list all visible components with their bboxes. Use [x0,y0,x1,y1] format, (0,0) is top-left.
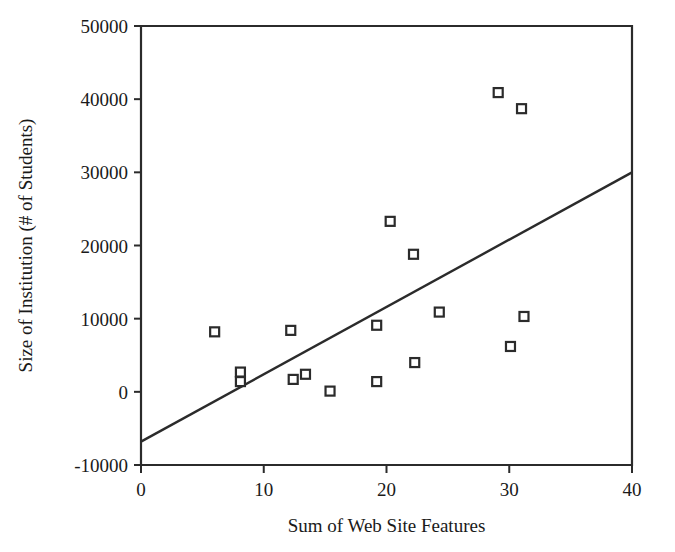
data-point-marker [236,368,245,377]
y-axis-tick-label: -10000 [74,455,128,476]
y-axis-tick-label: 10000 [81,309,129,330]
y-axis-tick-label: 50000 [81,16,129,37]
x-axis-tick-label: 20 [377,479,396,500]
x-axis-tick-label: 0 [136,479,146,500]
data-point-marker [517,104,526,113]
y-axis-tick-labels: -1000001000020000300004000050000 [74,16,128,476]
data-point-marker [289,375,298,384]
x-axis-tick-label: 40 [623,479,642,500]
x-axis-tick-labels: 010203040 [136,479,641,500]
y-axis-tick-label: 30000 [81,162,129,183]
data-point-marker [435,308,444,317]
data-point-marker [236,377,245,386]
chart-canvas: -1000001000020000300004000050000 0102030… [0,0,675,552]
axis-tick-marks [134,26,632,473]
data-point-marker [372,377,381,386]
scatter-plot-figure: -1000001000020000300004000050000 0102030… [0,0,675,552]
x-axis-title: Sum of Web Site Features [288,515,486,536]
regression-trend-line [141,172,632,441]
x-axis-tick-label: 10 [254,479,273,500]
data-point-marker [372,321,381,330]
y-axis-tick-label: 0 [119,382,129,403]
data-point-marker [409,250,418,259]
y-axis-title: Size of Institution (# of Students) [15,119,37,373]
data-point-marker [210,327,219,336]
data-point-marker [326,387,335,396]
plot-axis-frame [141,26,632,465]
x-axis-tick-label: 30 [500,479,519,500]
data-point-markers [210,88,528,396]
data-point-marker [494,88,503,97]
data-point-marker [519,312,528,321]
y-axis-tick-label: 40000 [81,89,129,110]
data-point-marker [410,358,419,367]
data-point-marker [386,217,395,226]
data-point-marker [286,326,295,335]
data-point-marker [301,370,310,379]
y-axis-tick-label: 20000 [81,236,129,257]
data-point-marker [506,342,515,351]
